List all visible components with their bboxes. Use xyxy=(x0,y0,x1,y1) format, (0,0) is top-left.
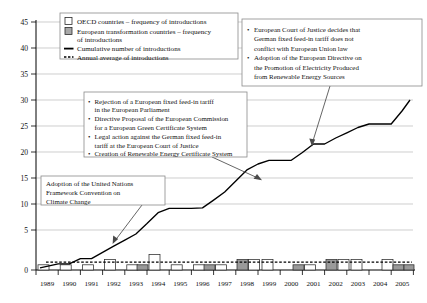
y-tick-35: 35 xyxy=(20,70,28,79)
bar-oecd-2002 xyxy=(338,260,349,270)
y-tick-30: 30 xyxy=(20,96,28,105)
bar-oecd-2003 xyxy=(351,260,362,270)
chart-container: 45 40 35 30 25 20 15 10 5 0 1989 1990 19… xyxy=(0,0,427,303)
legend-swatch-oecd xyxy=(65,18,72,25)
annotation-tariff-b3-l2: tariff at the European Court of Justice xyxy=(95,142,199,149)
annotation-court-justice-b2-l2: the Promotion of Electricity Produced xyxy=(254,64,359,71)
annotation-unfccc-l1: Adoption of the United Nations xyxy=(46,180,134,187)
y-axis-ticks xyxy=(31,22,36,270)
annotation-court-justice: • European Court of Justice decides that… xyxy=(242,19,422,147)
annotation-tariff-b1-l1: Rejection of a European fixed feed-in ta… xyxy=(95,98,215,105)
legend-label-transformation-line1: European transformation countries – freq… xyxy=(77,28,211,36)
x-tick-1998: 1998 xyxy=(240,280,255,288)
x-tick-2004: 2004 xyxy=(373,280,388,288)
x-tick-1999: 1999 xyxy=(262,280,277,288)
legend-label-cumulative: Cumulative number of introductions xyxy=(77,45,181,53)
annotation-court-justice-b2-l1: Adoption of the European Directive on xyxy=(254,54,362,61)
x-axis-ticks xyxy=(36,270,413,275)
annotation-tariff-b4-l1: Creation of Renewable Energy Certificate… xyxy=(95,150,233,157)
x-tick-1993: 1993 xyxy=(129,280,144,288)
bar-etc-1993 xyxy=(137,265,148,270)
y-tick-25: 25 xyxy=(20,122,28,131)
bar-oecd-1991 xyxy=(82,265,93,270)
x-tick-1995: 1995 xyxy=(173,280,188,288)
x-tick-1989: 1989 xyxy=(40,280,55,288)
y-tick-15: 15 xyxy=(20,174,28,183)
annotation-unfccc: Adoption of the United Nations Framework… xyxy=(41,176,165,244)
bar-etc-2001 xyxy=(293,265,304,270)
annotation-tariff-b1-l2: in the European Parliament xyxy=(95,106,170,113)
legend-label-transformation-line2: of introductions xyxy=(77,36,122,44)
bar-oecd-2001 xyxy=(304,265,315,270)
bar-etc-1998 xyxy=(237,260,248,270)
bar-oecd-1997 xyxy=(216,265,227,270)
x-tick-2002: 2002 xyxy=(329,280,344,288)
bar-oecd-1998 xyxy=(248,260,259,270)
legend-label-oecd: OECD countries – frequency of introducti… xyxy=(77,18,207,26)
bar-oecd-1990 xyxy=(60,265,71,270)
annotation-unfccc-arrowhead xyxy=(113,236,119,245)
annotation-court-justice-arrowhead xyxy=(309,139,315,147)
annotation-unfccc-l3: Climate Change xyxy=(46,198,91,205)
annotation-unfccc-leader xyxy=(114,205,142,242)
y-tick-40: 40 xyxy=(20,44,28,53)
annotation-court-justice-b1-l3: conflict with European Union law xyxy=(254,45,348,52)
legend-swatch-transformation xyxy=(65,28,72,35)
annotation-feed-in-tariff-arrowhead xyxy=(254,174,262,180)
y-tick-0: 0 xyxy=(24,266,28,275)
annotation-court-justice-b1-l1: European Court of Justice decides that xyxy=(254,26,360,33)
annotation-court-justice-leader xyxy=(312,86,330,144)
x-tick-1992: 1992 xyxy=(107,280,122,288)
annotation-tariff-b3-l1: Legal action against the German fixed fe… xyxy=(95,133,222,140)
bar-oecd-1995 xyxy=(171,265,182,270)
x-tick-1990: 1990 xyxy=(62,280,77,288)
y-tick-10: 10 xyxy=(20,200,28,209)
x-tick-2001: 2001 xyxy=(306,280,321,288)
chart-legend: OECD countries – frequency of introducti… xyxy=(60,13,238,62)
annotation-tariff-b2-l1: Directive Proposal of the European Commi… xyxy=(95,115,229,122)
bar-oecd-1996 xyxy=(193,265,204,270)
annotation-feed-in-tariff: • Rejection of a European fixed feed-in … xyxy=(84,92,262,180)
bar-etc-2004 xyxy=(393,265,404,270)
x-tick-1996: 1996 xyxy=(195,280,210,288)
bar-etc-2005 xyxy=(404,265,414,270)
bar-oecd-1999 xyxy=(262,260,273,270)
bar-oecd-1992 xyxy=(105,260,116,270)
x-axis-labels: 1989 1990 1991 1992 1993 1994 1995 1996 … xyxy=(40,280,410,288)
y-tick-5: 5 xyxy=(24,226,28,235)
bar-etc-2002 xyxy=(326,260,337,270)
y-axis-labels: 45 40 35 30 25 20 15 10 5 0 xyxy=(20,18,28,275)
annotation-court-justice-b1-l2: German fixed feed-in tariff does not xyxy=(254,35,354,42)
x-tick-1994: 1994 xyxy=(151,280,166,288)
y-tick-45: 45 xyxy=(20,18,28,27)
annotation-court-justice-b2-l3: from Renewable Energy Sources xyxy=(254,73,345,80)
annotation-unfccc-l2: Framework Convention on xyxy=(46,189,121,196)
annotation-tariff-b2-l2: for a European Green Certificate System xyxy=(95,124,208,131)
bar-etc-1996 xyxy=(204,265,215,270)
x-tick-1997: 1997 xyxy=(218,280,233,288)
bar-oecd-2004 xyxy=(382,260,393,270)
bar-oecd-1993 xyxy=(127,265,138,270)
x-tick-2005: 2005 xyxy=(395,280,410,288)
x-tick-1991: 1991 xyxy=(84,280,99,288)
legend-label-average: Annual average of introductions xyxy=(77,54,169,62)
annotation-feed-in-tariff-leader xyxy=(212,157,260,179)
y-tick-20: 20 xyxy=(20,148,28,157)
x-tick-2000: 2000 xyxy=(284,280,299,288)
x-tick-2003: 2003 xyxy=(351,280,366,288)
